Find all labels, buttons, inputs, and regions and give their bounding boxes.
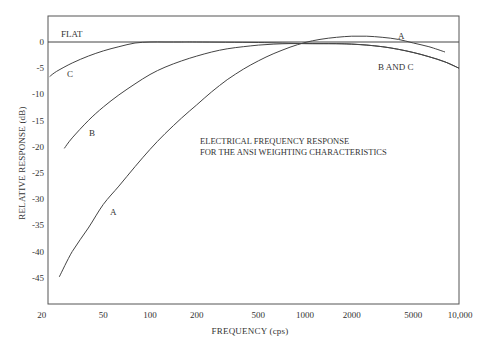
- x-tick-label: 10,000: [448, 310, 473, 320]
- x-tick-label: 50: [99, 310, 109, 320]
- y-tick-label: -20: [32, 142, 44, 152]
- curve-label: B: [89, 128, 95, 138]
- x-tick-label: 2000: [343, 310, 362, 320]
- y-tick-label: -40: [32, 247, 44, 257]
- x-tick-label: 200: [190, 310, 204, 320]
- x-tick-label: 500: [252, 310, 266, 320]
- x-tick-label: 100: [143, 310, 157, 320]
- x-tick-label: 20: [37, 310, 47, 320]
- y-tick-label: -5: [37, 63, 45, 73]
- y-axis-title: RELATIVE RESPONSE (dB): [17, 106, 27, 219]
- x-axis-title: FREQUENCY (cps): [212, 326, 289, 336]
- y-tick-label: -30: [32, 194, 44, 204]
- y-tick-label: -45: [32, 273, 44, 283]
- curve-label: B AND C: [378, 62, 414, 72]
- curve-labels: FLATCBAAB AND C: [61, 29, 414, 217]
- y-axis-ticks: 0-5-10-15-20-25-30-35-40-45: [32, 37, 45, 283]
- curve-label: A: [398, 31, 405, 41]
- x-tick-label: 1000: [296, 310, 315, 320]
- chart-annotation-line-2: FOR THE ANSI WEIGHTING CHARACTERISTICS: [200, 147, 387, 157]
- y-tick-label: -10: [32, 89, 44, 99]
- x-tick-label: 5000: [404, 310, 423, 320]
- y-tick-label: 0: [40, 37, 45, 47]
- y-tick-label: -15: [32, 116, 44, 126]
- y-tick-label: -25: [32, 168, 44, 178]
- curve-label: A: [110, 207, 117, 217]
- y-tick-label: -35: [32, 220, 44, 230]
- chart-annotation-line-1: ELECTRICAL FREQUENCY RESPONSE: [200, 136, 349, 146]
- x-axis-ticks: 205010020050010002000500010,000: [37, 310, 473, 320]
- plot-frame: [48, 16, 459, 304]
- curve-label: C: [67, 69, 73, 79]
- weighting-chart: 0-5-10-15-20-25-30-35-40-45 205010020050…: [0, 0, 484, 350]
- curve-label: FLAT: [61, 29, 83, 39]
